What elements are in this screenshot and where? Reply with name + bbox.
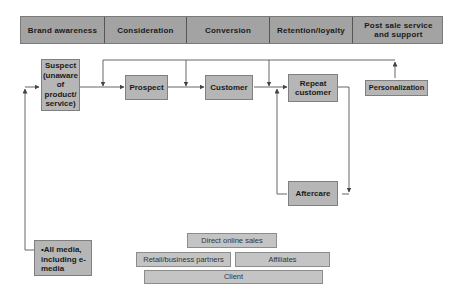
media-node: •All media, including e-media <box>34 240 92 276</box>
retail-business-partners-box: Retail/business partners <box>136 252 231 267</box>
prospect-node: Prospect <box>125 75 168 100</box>
suspect-node: Suspect (unaware of product/ service) <box>41 59 80 111</box>
personalization-node: Personalization <box>365 80 428 96</box>
direct-online-sales-box: Direct online sales <box>187 233 277 248</box>
aftercare-node: Aftercare <box>288 181 338 206</box>
client-box: Client <box>144 270 323 284</box>
affiliates-box: Affiliates <box>235 252 330 267</box>
repeat-customer-node: Repeat customer <box>288 74 338 102</box>
customer-node: Customer <box>205 75 253 100</box>
